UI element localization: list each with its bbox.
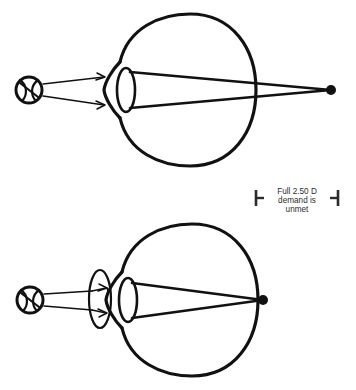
ball-seam-right-icon-bottom bbox=[33, 290, 39, 311]
incident-ray-upper-bottom bbox=[44, 291, 92, 294]
uncorrected-eye-panel bbox=[16, 14, 336, 166]
refracted-ray-upper-top bbox=[130, 72, 331, 90]
focal-point-behind-retina bbox=[326, 85, 336, 95]
annotation-line-1: Full 2.50 D bbox=[277, 187, 317, 196]
incident-ray-lower-top bbox=[43, 96, 104, 105]
incident-ray-upper-top bbox=[43, 77, 104, 84]
annotation-line-3: unmet bbox=[286, 205, 309, 214]
eye-globe-bottom bbox=[122, 224, 258, 376]
figure-root: Full 2.50 D demand is unmet bbox=[0, 0, 356, 390]
ball-seam-diagonal-icon-bottom bbox=[21, 293, 39, 307]
accommodation-demand-annotation: Full 2.50 D demand is unmet bbox=[256, 187, 338, 214]
arrowhead-upper-top bbox=[96, 73, 105, 80]
ball-object-bottom bbox=[17, 287, 43, 313]
annotation-line-2: demand is bbox=[278, 196, 316, 205]
corrected-eye-panel bbox=[17, 224, 268, 376]
incident-ray-lower-bottom bbox=[44, 306, 92, 310]
eye-globe-top bbox=[120, 14, 256, 166]
focal-point-on-retina bbox=[258, 295, 268, 305]
ball-seam-diagonal-icon bbox=[20, 83, 38, 97]
ball-seam-right-icon bbox=[32, 80, 38, 101]
crystalline-lens-top bbox=[117, 68, 135, 112]
ball-object bbox=[16, 77, 42, 103]
arrowhead-upper-bottom bbox=[98, 284, 107, 291]
refracted-ray-lower-bottom bbox=[132, 300, 263, 318]
refracted-ray-upper-bottom bbox=[132, 283, 263, 300]
refracted-ray-lower-top bbox=[130, 90, 331, 108]
optics-diagram-svg: Full 2.50 D demand is unmet bbox=[0, 0, 356, 390]
